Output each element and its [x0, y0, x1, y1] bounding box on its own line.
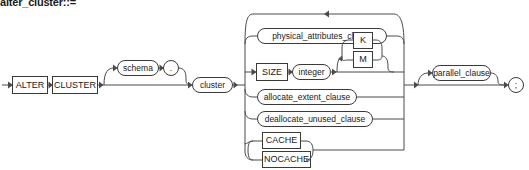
punctuation-dot-label: .: [170, 63, 172, 73]
schema-branch-in-rail: [104, 68, 117, 85]
token-cluster-keyword-label: CLUSTER: [54, 80, 97, 90]
nonterminal-schema: schema: [118, 61, 159, 76]
token-m-label: M: [359, 54, 367, 64]
token-cache: CACHE: [263, 133, 301, 149]
punctuation-dot: .: [164, 61, 179, 76]
nonterminal-integer-label: integer: [299, 67, 325, 77]
schema-branch-out-rail: [179, 68, 193, 85]
token-m: M: [354, 52, 373, 68]
cache-group-left-spine: [248, 141, 253, 160]
entry-rail: [2, 82, 13, 89]
nonterminal-allocate-extent-clause: allocate_extent_clause: [258, 90, 357, 105]
nonterminal-schema-label: schema: [123, 63, 153, 73]
nonterminal-allocate-extent-clause-label: allocate_extent_clause: [264, 92, 351, 102]
nonterminal-deallocate-unused-clause: deallocate_unused_clause: [258, 112, 373, 127]
token-nocache-label: NOCACHE: [264, 154, 309, 164]
token-k: K: [354, 33, 373, 49]
token-size-label: SIZE: [262, 67, 282, 77]
token-alter-label: ALTER: [16, 80, 45, 90]
punctuation-semicolon-label: ;: [515, 80, 517, 90]
branch3-in-rail: [245, 89, 257, 97]
branch2-arrow: [252, 69, 257, 76]
branch4-in-rail: [245, 111, 257, 119]
parallel-branch-out-rail: [491, 73, 505, 85]
km-fork-arrow: [332, 69, 337, 76]
repeat-loop-arrow: [324, 11, 329, 18]
m-branch-out-rail: [373, 56, 383, 60]
rail-cluster-to-branch-fork: [233, 82, 239, 89]
token-alter: ALTER: [13, 77, 48, 94]
token-nocache: NOCACHE: [263, 152, 311, 168]
nonterminal-cluster-label: cluster: [200, 80, 225, 90]
nonterminal-cluster: cluster: [193, 78, 233, 93]
railroad-diagram-canvas: ALTER CLUSTER schema .: [0, 0, 529, 170]
nonterminal-parallel-clause: parallel_clause: [433, 66, 491, 81]
token-size: SIZE: [257, 64, 288, 81]
syntax-diagram-page: alter_cluster::= ALTER CLUSTER: [0, 0, 529, 170]
token-k-label: K: [360, 35, 366, 45]
semicolon-arrow: [504, 82, 509, 89]
nonterminal-integer: integer: [293, 65, 331, 80]
schema-branch-arrow: [113, 65, 118, 72]
token-cache-label: CACHE: [266, 135, 298, 145]
branch1-out-rail: [387, 36, 405, 44]
punctuation-semicolon: ;: [509, 78, 524, 93]
rail-cluster-to-schema-fork: [98, 82, 105, 89]
nonterminal-parallel-clause-label: parallel_clause: [433, 68, 490, 78]
m-branch-in-rail: [342, 56, 353, 61]
cluster-arrow: [188, 82, 193, 89]
parallel-clause-arrow: [428, 70, 433, 77]
nonterminal-deallocate-unused-clause-label: deallocate_unused_clause: [265, 114, 366, 124]
token-cluster-keyword: CLUSTER: [53, 77, 98, 94]
km-merge-rail: [382, 56, 394, 72]
branch1-in-rail: [245, 36, 257, 44]
